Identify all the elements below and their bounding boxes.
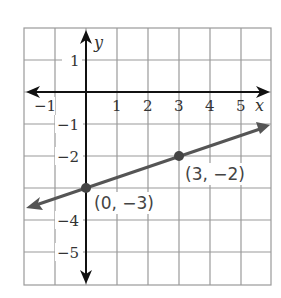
point-a: [81, 183, 91, 193]
x-tick: 1: [112, 97, 122, 115]
y-tick: 1: [70, 52, 80, 70]
point-a-label: (0, −3): [94, 193, 154, 213]
y-tick: −1: [57, 116, 79, 134]
point-b: [174, 151, 184, 161]
x-tick: 2: [143, 97, 153, 115]
y-tick: −5: [57, 244, 79, 262]
point-b-label: (3, −2): [185, 164, 245, 184]
y-axis-label: y: [93, 33, 104, 52]
x-axis-label: x: [255, 96, 264, 115]
x-tick: 4: [205, 97, 215, 115]
x-tick: −1: [34, 97, 56, 115]
x-tick: 3: [174, 97, 184, 115]
y-tick: −4: [57, 212, 79, 230]
y-tick: −2: [57, 148, 79, 166]
coordinate-plane: −1 1 2 3 4 5 x 1 −1 −2 −4 −5 y (0, −3) (…: [0, 0, 281, 298]
x-tick: 5: [236, 97, 246, 115]
